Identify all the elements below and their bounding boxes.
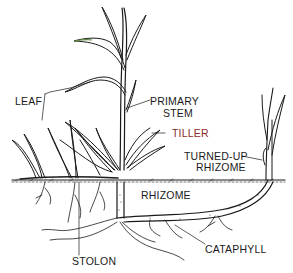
label-tiller: TILLER: [172, 128, 209, 139]
label-primary-stem-line1: PRIMARY: [150, 96, 199, 107]
soil-surface-line: [12, 179, 285, 182]
stolon-leaves: [12, 120, 100, 178]
leaf-leader: [45, 82, 90, 94]
grass-plant-diagram: LEAF PRIMARY STEM TILLER TURNED-UP RHIZO…: [0, 0, 293, 273]
plant-illustration: [0, 0, 293, 273]
rhizome-vertical: [117, 182, 124, 218]
stem-leaves: [65, 7, 146, 112]
label-cataphyll: CATAPHYLL: [205, 244, 267, 255]
label-rhizome: RHIZOME: [141, 190, 191, 201]
label-stolon: STOLON: [72, 256, 116, 267]
label-turned-up-rhizome-line2: RHIZOME: [196, 162, 246, 173]
stolon-runner: [20, 177, 118, 179]
cataphyll-leader: [175, 225, 205, 244]
label-primary-stem-line2: STEM: [163, 108, 193, 119]
turned-up-rhizome-shoot: [262, 88, 285, 180]
rhizome-runner: [117, 180, 273, 222]
label-leaf: LEAF: [15, 96, 42, 107]
